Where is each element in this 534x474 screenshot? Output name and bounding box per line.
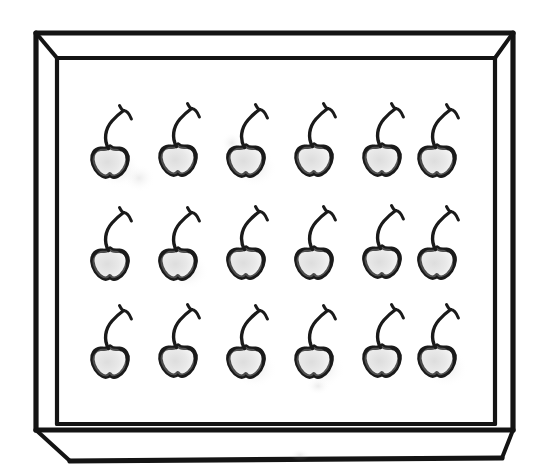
cherry <box>364 305 403 377</box>
box-corner-bevel-top-right <box>495 33 513 58</box>
cherry <box>364 206 403 278</box>
cherry <box>364 104 403 176</box>
cherry <box>296 306 345 389</box>
cherry-grid <box>92 104 468 389</box>
cherry-stem <box>433 310 451 348</box>
paper-smudge-layer <box>123 132 330 461</box>
cherry-stem <box>242 212 260 250</box>
paper-smudge <box>290 449 310 461</box>
cherry-stem <box>433 110 451 148</box>
cherry <box>419 105 458 177</box>
cherry-stem <box>174 109 192 147</box>
cherry <box>160 208 209 291</box>
cherry <box>160 305 199 377</box>
cherry <box>228 306 277 389</box>
cherry <box>92 306 131 378</box>
cherry-stem <box>378 310 396 348</box>
cherry-stem <box>242 110 260 148</box>
cherry-box-illustration <box>0 0 534 474</box>
cherry-stem <box>433 212 451 250</box>
drawing-canvas: Hand-drawn open box of cherries pencil l… <box>0 0 534 474</box>
box-front-right-bevel <box>502 430 513 458</box>
box-front-bottom-edge <box>70 458 502 461</box>
cherry <box>160 104 199 176</box>
cherry <box>296 104 335 176</box>
cherry <box>419 305 468 388</box>
box-corner-bevel-top-left <box>36 33 57 58</box>
cherry-stem <box>106 213 124 251</box>
cherry-stem <box>174 310 192 348</box>
cherry-stem <box>106 311 124 349</box>
cherry <box>92 106 141 189</box>
cherry-stem <box>310 109 328 147</box>
cherry-stem <box>378 109 396 147</box>
cherry <box>228 207 267 279</box>
cherry-stem <box>174 213 192 251</box>
cherry <box>296 207 335 279</box>
cherry <box>228 105 277 188</box>
box-front-left-bevel <box>36 430 70 461</box>
cherry-stem <box>310 212 328 250</box>
cherry-stem <box>310 311 328 349</box>
cherry <box>92 208 131 280</box>
cherry-stem <box>378 211 396 249</box>
cherry <box>419 207 458 279</box>
cherry-stem <box>106 111 124 149</box>
cherry-stem <box>242 311 260 349</box>
